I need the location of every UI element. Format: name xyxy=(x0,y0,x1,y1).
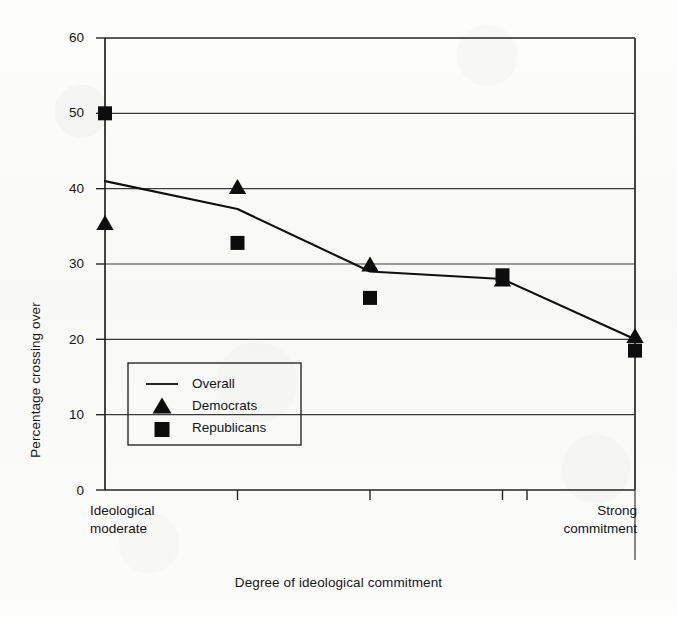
legend-triangle-glyph xyxy=(153,398,172,414)
legend-label-republicans: Republicans xyxy=(192,420,266,435)
x-axis-left-end-label-line1: Ideological xyxy=(90,502,155,520)
republicans-marker-5 xyxy=(628,344,642,358)
x-axis-right-end-label-line2: commitment xyxy=(537,520,637,538)
x-axis-title: Degree of ideological commitment xyxy=(0,575,677,590)
democrats-marker-2 xyxy=(229,179,246,194)
democrats-marker-1 xyxy=(96,215,113,230)
republicans-marker-1 xyxy=(98,106,112,120)
republicans-marker-2 xyxy=(231,236,245,250)
legend-label-democrats: Democrats xyxy=(192,398,257,413)
series-republicans-markers xyxy=(98,106,642,357)
legend-square-glyph xyxy=(155,422,170,437)
x-axis-left-end-label-line2: moderate xyxy=(90,520,155,538)
legend-label-overall: Overall xyxy=(192,376,235,391)
x-axis-ticks xyxy=(238,490,528,500)
y-axis-ticks xyxy=(96,38,105,490)
x-axis-left-end-label: Ideological moderate xyxy=(90,502,155,538)
republicans-marker-4 xyxy=(496,268,510,282)
x-axis-right-end-label: Strong commitment xyxy=(537,502,637,538)
series-democrats-markers xyxy=(96,179,643,343)
republicans-marker-3 xyxy=(363,291,377,305)
chart-figure: Percentage crossing over 60 50 40 30 20 … xyxy=(0,0,677,617)
x-axis-right-end-label-line1: Strong xyxy=(537,502,637,520)
